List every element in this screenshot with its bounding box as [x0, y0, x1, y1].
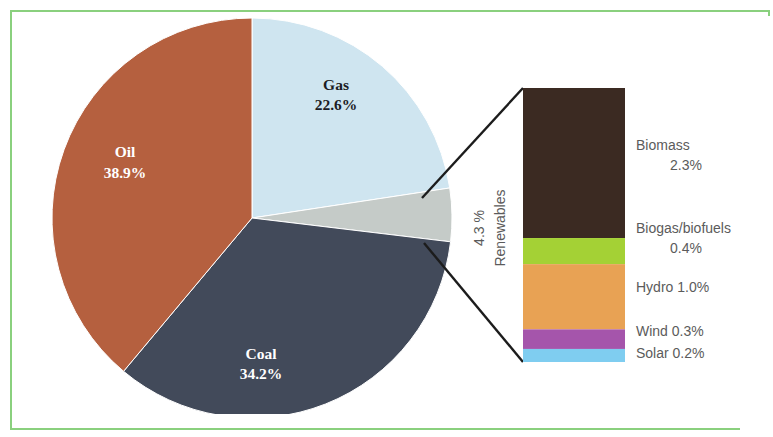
- bar-label-wind: Wind 0.3%: [636, 323, 704, 339]
- bar-label-biogas-biofuels: Biogas/biofuels: [636, 220, 731, 236]
- callout-line-bottom: [424, 243, 523, 362]
- bar-segment-biogas-biofuels: [523, 238, 625, 264]
- pie-label-oil-name: Oil: [115, 143, 136, 160]
- bar-label-biomass: 2.3%: [670, 157, 702, 173]
- pie-label-gas-value: 22.6%: [315, 96, 358, 113]
- chart-page: Gas22.6%Coal34.2%Oil38.9% 4.3 % Renewabl…: [0, 0, 773, 437]
- pie-label-oil-value: 38.9%: [104, 164, 147, 181]
- bar-segment-solar: [523, 349, 625, 362]
- callout-value-label: 4.3 %: [471, 210, 487, 246]
- chart-canvas: Gas22.6%Coal34.2%Oil38.9% 4.3 % Renewabl…: [0, 0, 773, 437]
- bar-label-hydro: Hydro 1.0%: [636, 279, 709, 295]
- bar-label-solar: Solar 0.2%: [636, 345, 704, 361]
- pie-label-coal-value: 34.2%: [240, 365, 283, 382]
- renewables-breakout-bar: [523, 88, 625, 362]
- pie-slice-gas: [252, 18, 450, 218]
- pie-label-coal-name: Coal: [246, 345, 278, 362]
- bar-segment-biomass: [523, 88, 625, 238]
- breakout-bar-labels: Biomass2.3%Biogas/biofuels0.4%Hydro 1.0%…: [636, 137, 731, 361]
- pie-label-gas-name: Gas: [323, 76, 349, 93]
- bar-label-biomass: Biomass: [636, 137, 690, 153]
- bar-segment-hydro: [523, 264, 625, 329]
- bar-segment-wind: [523, 329, 625, 349]
- bar-label-biogas-biofuels: 0.4%: [670, 240, 702, 256]
- callout-name-label: Renewables: [492, 189, 508, 266]
